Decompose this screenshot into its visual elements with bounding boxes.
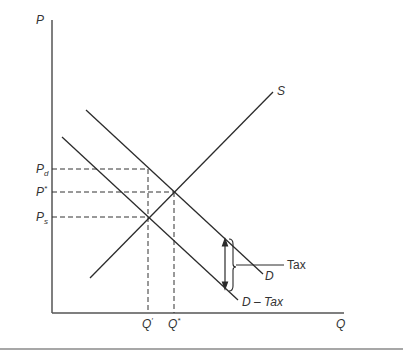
demand-minus-tax-curve bbox=[62, 137, 238, 300]
pstar-label: P* bbox=[36, 184, 48, 199]
supply-label: S bbox=[277, 84, 285, 98]
qstar-label: Q* bbox=[168, 316, 181, 331]
reference-lines bbox=[52, 169, 174, 313]
qprime-label: Q′ bbox=[142, 316, 153, 331]
tax-arrow-icon bbox=[223, 239, 228, 289]
supply-curve bbox=[90, 92, 273, 278]
p-axis-label: P bbox=[36, 13, 44, 27]
demand-tax-label: D – Tax bbox=[242, 295, 284, 309]
q-axis-label: Q bbox=[336, 317, 345, 331]
demand-label: D bbox=[265, 269, 274, 283]
tax-label: Tax bbox=[287, 258, 306, 272]
tax-incidence-diagram: P Q Pd P* Ps Q′ Q* S D D – Tax Tax bbox=[0, 0, 403, 363]
pd-label: Pd bbox=[36, 162, 49, 178]
tax-brace-icon bbox=[229, 239, 236, 291]
ps-label: Ps bbox=[36, 210, 48, 226]
